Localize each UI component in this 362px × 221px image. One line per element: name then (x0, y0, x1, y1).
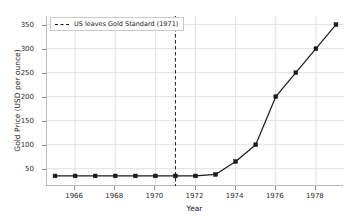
x-axis-tick-mark (114, 186, 115, 190)
data-point-marker (53, 174, 57, 178)
x-axis-tick-mark (315, 186, 316, 190)
x-axis-tick-mark (235, 186, 236, 190)
data-point-marker (133, 174, 137, 178)
data-point-marker (294, 71, 298, 75)
legend-dashed-line-swatch (55, 24, 69, 25)
data-point-marker (73, 174, 77, 178)
data-point-marker (214, 173, 218, 177)
legend-item-label: US leaves Gold Standard (1971) (74, 20, 178, 28)
y-axis-tick-label: 350 (21, 21, 34, 29)
x-axis-tick-label: 1978 (306, 192, 324, 200)
y-axis-tick-mark (42, 49, 46, 50)
y-axis-tick-mark (42, 97, 46, 98)
data-point-marker (153, 174, 157, 178)
gold-price-line-chart: 50100150200250300350 Gold Price (USD per… (0, 0, 362, 221)
x-axis-tick-mark (74, 186, 75, 190)
x-axis-tick-label: 1974 (226, 192, 244, 200)
y-axis-tick-mark (42, 169, 46, 170)
y-axis-tick-label: 150 (21, 117, 34, 125)
data-point-marker (93, 174, 97, 178)
x-axis-tick-label: 1966 (65, 192, 83, 200)
data-point-marker (113, 174, 117, 178)
data-point-marker (234, 160, 238, 164)
x-axis-tick-label: 1972 (186, 192, 204, 200)
x-axis-tick-mark (195, 186, 196, 190)
y-axis-tick-mark (42, 145, 46, 146)
x-axis-title: Year (46, 204, 343, 213)
data-point-marker (174, 174, 178, 178)
y-axis-tick-mark (42, 121, 46, 122)
y-axis-tick-label: 300 (21, 45, 34, 53)
data-point-marker (334, 23, 338, 27)
y-axis-tick-label: 200 (21, 93, 34, 101)
x-axis-tick-mark (275, 186, 276, 190)
data-point-marker (194, 174, 198, 178)
y-axis-tick-label: 250 (21, 69, 34, 77)
y-axis-tick-mark (42, 73, 46, 74)
y-axis-tick-mark (42, 25, 46, 26)
y-axis-title: Gold Price (USD per ounce) (13, 36, 22, 166)
plot-canvas (47, 16, 344, 186)
chart-legend: US leaves Gold Standard (1971) (50, 17, 184, 31)
x-axis-tick-mark (154, 186, 155, 190)
data-point-marker (274, 95, 278, 99)
x-axis-tick-label: 1970 (145, 192, 163, 200)
data-point-marker (314, 47, 318, 51)
x-axis-tick-label: 1968 (105, 192, 123, 200)
x-axis-tick-label: 1976 (266, 192, 284, 200)
y-axis-tick-label: 50 (25, 165, 34, 173)
data-point-marker (254, 143, 258, 147)
y-axis-tick-label: 100 (21, 141, 34, 149)
plot-area (46, 16, 343, 186)
